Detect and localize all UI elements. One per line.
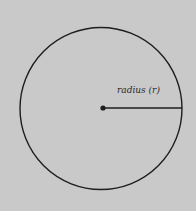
radius-label: radius (r) — [117, 85, 160, 95]
center-point — [100, 105, 105, 110]
circle-diagram: radius (r) — [0, 0, 196, 211]
